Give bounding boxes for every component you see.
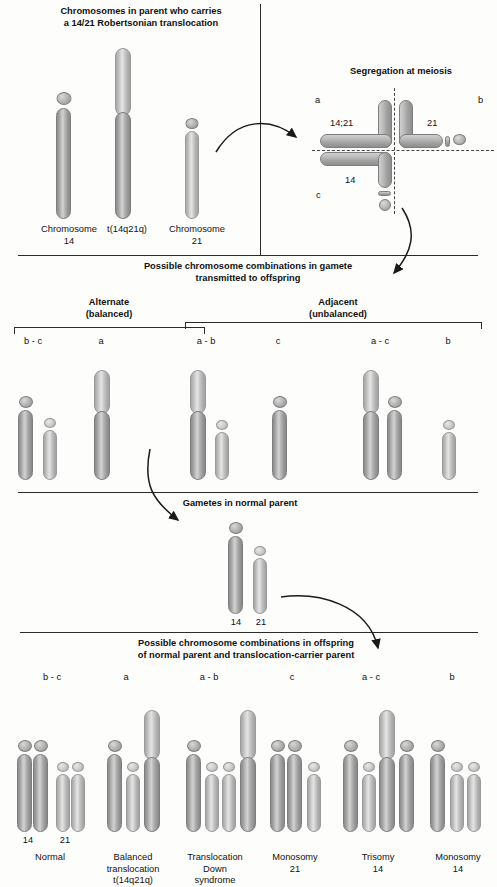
chromosome-arm [215, 432, 229, 480]
satellite [400, 740, 414, 752]
offspring-combo-label-0: b - c [43, 672, 61, 684]
chromosome-arm [56, 108, 71, 219]
offspring-chromosome [362, 762, 376, 832]
satellite [273, 396, 287, 408]
meiosis-label-b: b [478, 95, 483, 107]
satellite [431, 740, 445, 752]
satellite [187, 740, 201, 752]
offspring-translocation-chromosome [144, 710, 160, 832]
satellite [223, 762, 235, 772]
divider-2-caption: Gametes in normal parent [183, 498, 298, 510]
meiosis-divider-vertical [394, 88, 395, 214]
chromosome-arm-lower [94, 411, 110, 480]
chromosome-arm [270, 754, 285, 832]
meiosis-label-14-21: 14;21 [330, 118, 353, 130]
chromosome-arm [205, 774, 219, 832]
meiosis-label-21: 21 [427, 118, 437, 130]
parent-chromosome-21 [185, 118, 199, 219]
gamete-translocation-chromosome [94, 370, 110, 480]
gamete-chromosome [387, 396, 402, 480]
offspring-outcome-5: Monosomy 14 [435, 852, 480, 875]
chromosome-arm [343, 754, 358, 832]
chromosome-arm [253, 558, 267, 614]
offspring-chromosome [126, 762, 140, 832]
satellite [108, 740, 122, 752]
gamete-chromosome [18, 396, 33, 480]
chromosome-arm [222, 774, 236, 832]
chromosome-arm [399, 754, 414, 832]
meiosis-c-short-segment [378, 191, 391, 196]
satellite [44, 418, 56, 428]
chromosome-arm-upper [379, 710, 395, 760]
chromosome-arm [387, 410, 402, 480]
meiosis-label-14: 14 [345, 175, 355, 187]
meiosis-arm-b-horizontal [399, 134, 443, 148]
alternate-bracket [14, 327, 205, 334]
chromosome-arm [126, 774, 140, 832]
chromosome-arm [442, 432, 456, 480]
chromosome-arm [450, 774, 464, 832]
offspring-chromosome [343, 740, 358, 832]
chromosome-arm [362, 774, 376, 832]
offspring-chromosome [56, 762, 70, 832]
offspring-chromosome [450, 762, 464, 832]
vertical-divider [260, 4, 261, 256]
chromosome-arm [33, 754, 48, 832]
meiosis-divider-horizontal [312, 150, 494, 151]
chromosome-arm-upper [240, 710, 256, 760]
chromosome-arm-upper [94, 370, 110, 414]
chromosome-arm-upper [115, 48, 131, 116]
divider-line-3 [20, 632, 478, 633]
chromosome-arm-lower [363, 411, 379, 480]
chromosome-arm-lower [144, 757, 160, 832]
offspring-combo-label-2: a - b [200, 672, 219, 684]
meiosis-label-a: a [315, 95, 320, 107]
chromosome-arm [307, 774, 321, 832]
parent-translocation-chromosome [115, 48, 131, 219]
chromosome-arm [43, 430, 57, 480]
gamete-label-3: c [276, 336, 281, 348]
chromosome-arm-lower [115, 112, 131, 219]
chromosome-arm-upper [190, 370, 206, 414]
meiosis-arm-a-horizontal [320, 134, 392, 148]
satellite [72, 762, 84, 772]
gamete-label-5: b [445, 336, 450, 348]
offspring-chromosome [287, 740, 302, 832]
arrow-meiosis-to-gametes [394, 208, 411, 273]
gamete-chromosome [215, 420, 229, 480]
offspring-tick-14: 14 [23, 835, 33, 847]
satellite [254, 546, 266, 556]
meiosis-label-c: c [316, 190, 321, 202]
adjacent-bracket [185, 322, 482, 329]
offspring-chromosome [186, 740, 201, 832]
offspring-chromosome [399, 740, 414, 832]
offspring-tick-21: 21 [60, 835, 70, 847]
chromosome-arm [272, 410, 287, 480]
offspring-outcome-0: Normal [35, 852, 65, 864]
offspring-chromosome [270, 740, 285, 832]
divider-1-caption: Possible chromosome combinations in game… [144, 261, 352, 284]
offspring-combo-label-1: a [123, 672, 128, 684]
divider-3-caption: Possible chromosome combinations in offs… [138, 638, 354, 661]
offspring-outcome-2: Translocation Down syndrome [187, 852, 242, 887]
chromosome-arm [228, 536, 243, 614]
offspring-chromosome [205, 762, 219, 832]
chromosome-arm [186, 754, 201, 832]
satellite [127, 762, 139, 772]
chromosome-arm [56, 774, 70, 832]
arrow-gametes-to-fertilization [148, 449, 178, 520]
chromosome-arm-lower [190, 411, 206, 480]
page-title: Chromosomes in parent who carries a 14/2… [60, 6, 221, 29]
chromosome-arm [71, 774, 85, 832]
satellite [57, 762, 69, 772]
offspring-translocation-chromosome [240, 710, 256, 832]
chromosome-arm-upper [144, 710, 160, 760]
chromosome-arm [107, 754, 122, 832]
satellite [388, 396, 402, 408]
divider-line-2 [18, 492, 478, 493]
satellite [216, 420, 228, 430]
satellite [186, 118, 199, 129]
gamete-chromosome [43, 418, 57, 480]
satellite [468, 762, 480, 772]
satellite [206, 762, 218, 772]
